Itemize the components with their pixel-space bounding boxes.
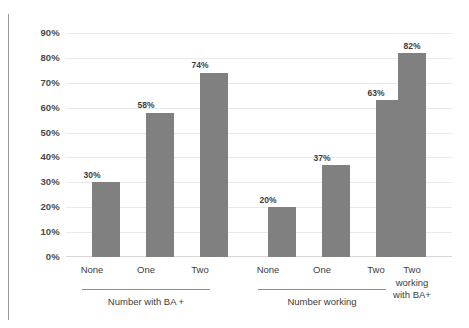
category-label-working-one: One [302,264,342,275]
category-label-ba-one: One [126,264,166,275]
group-rule-number-with-ba [82,289,210,290]
group-rule-number-working [258,289,386,290]
gridline-90 [66,33,452,34]
bar-value-working-two: 63% [356,88,396,98]
y-tick-40: 40% [8,151,60,162]
bar-value-ba-one: 58% [126,100,166,110]
bar-working-none [268,207,296,257]
group-label-line-2: working [372,277,452,290]
y-tick-30: 30% [8,176,60,187]
bar-ba-none [92,182,120,257]
y-tick-0: 0% [8,251,60,262]
bar-value-ba-two: 74% [180,60,220,70]
bar-value-working-one: 37% [302,153,342,163]
category-label-ba-two: Two [180,264,220,275]
group-label-line-3: with BA+ [372,289,452,302]
y-tick-60: 60% [8,102,60,113]
gridline-80 [66,58,452,59]
bar-ba-one [146,113,174,257]
y-axis-tick-labels: 90% 80% 70% 60% 50% 40% 30% 20% 10% 0% [0,33,60,257]
group-label-line-1: Two [372,264,452,277]
y-tick-50: 50% [8,127,60,138]
group-label-number-working: Number working [262,296,382,307]
gridline-70 [66,83,452,84]
y-tick-10: 10% [8,226,60,237]
y-tick-20: 20% [8,201,60,212]
bar-value-two-working-with-ba-plus: 82% [392,41,432,51]
y-tick-70: 70% [8,77,60,88]
category-label-ba-none: None [72,264,112,275]
y-tick-90: 90% [8,27,60,38]
bar-working-one [322,165,350,257]
group-label-number-with-ba: Number with BA + [86,296,206,307]
bar-two-working-with-ba-plus [398,53,426,257]
bar-chart-figure: 90% 80% 70% 60% 50% 40% 30% 20% 10% 0% [0,0,469,328]
plot-area [66,33,452,257]
bar-ba-two [200,73,228,257]
y-tick-80: 80% [8,52,60,63]
bar-value-ba-none: 30% [72,170,112,180]
group-label-two-working-with-ba-plus: Two working with BA+ [372,264,452,302]
bar-value-working-none: 20% [248,195,288,205]
category-label-working-none: None [248,264,288,275]
